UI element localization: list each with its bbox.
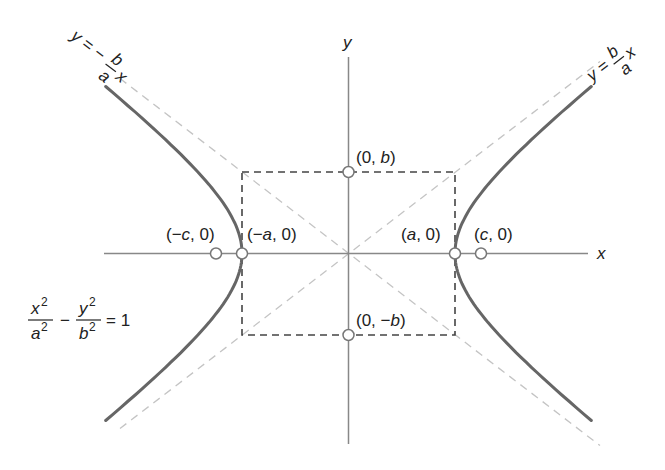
svg-text:b: b bbox=[79, 324, 88, 343]
svg-text:−: − bbox=[60, 311, 70, 330]
covertex-top-point bbox=[343, 167, 354, 178]
svg-text:= 1: = 1 bbox=[106, 311, 130, 330]
focus-left-point bbox=[211, 248, 222, 259]
hyperbola-equation: x 2 a 2 − y 2 b 2 = 1 bbox=[28, 295, 130, 343]
y-axis-label: y bbox=[342, 33, 353, 52]
svg-text:2: 2 bbox=[41, 320, 48, 334]
asymptote-positive bbox=[120, 62, 600, 429]
hyperbola-diagram: x y (0, b) (0, −b) (−c, 0) (−a, 0) (a, 0… bbox=[0, 0, 665, 470]
covertex-bottom-point bbox=[343, 330, 354, 341]
x-axis-label: x bbox=[596, 244, 606, 263]
svg-text:y = −: y = − bbox=[67, 25, 109, 64]
svg-text:2: 2 bbox=[41, 295, 48, 309]
svg-text:b: b bbox=[603, 41, 622, 62]
vertex-left-label: (−a, 0) bbox=[247, 225, 297, 244]
covertex-top-label: (0, b) bbox=[356, 148, 396, 167]
svg-text:2: 2 bbox=[89, 320, 96, 334]
svg-text:y =: y = bbox=[582, 56, 613, 86]
asymptote-negative bbox=[120, 79, 600, 446]
focus-left-label: (−c, 0) bbox=[166, 225, 215, 244]
asymptote-negative-label: y = − b a x bbox=[58, 21, 138, 95]
vertex-left-point bbox=[237, 248, 248, 259]
focus-right-label: (c, 0) bbox=[474, 225, 513, 244]
svg-text:x: x bbox=[30, 299, 40, 318]
vertex-right-point bbox=[450, 248, 461, 259]
svg-text:y: y bbox=[78, 299, 89, 318]
focus-right-point bbox=[476, 248, 487, 259]
vertex-right-label: (a, 0) bbox=[401, 225, 441, 244]
svg-text:a: a bbox=[95, 66, 114, 87]
covertex-bottom-label: (0, −b) bbox=[356, 311, 406, 330]
svg-text:a: a bbox=[31, 324, 40, 343]
svg-text:2: 2 bbox=[89, 295, 96, 309]
